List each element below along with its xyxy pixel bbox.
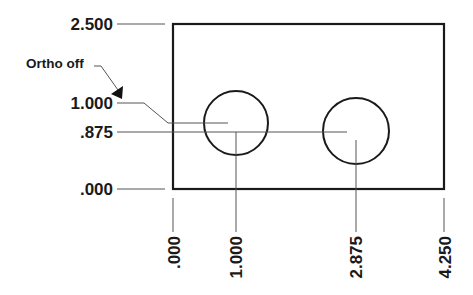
ortho-off-label: Ortho off <box>26 56 84 71</box>
y-label-1000: 1.000 <box>70 94 113 113</box>
y-label-0875: .875 <box>80 123 113 142</box>
ortho-leader <box>94 66 118 90</box>
x-label-0000: .000 <box>165 236 184 269</box>
x-label-1000: 1.000 <box>227 236 246 279</box>
y-label-2500: 2.500 <box>70 15 113 34</box>
drawing-canvas: 2.500 1.000 .875 .000 Ortho off .000 1.0… <box>0 0 473 295</box>
x-label-2875: 2.875 <box>347 236 366 279</box>
y-label-0000: .000 <box>80 180 113 199</box>
part-outline <box>173 24 444 189</box>
x-label-4250: 4.250 <box>436 236 455 279</box>
